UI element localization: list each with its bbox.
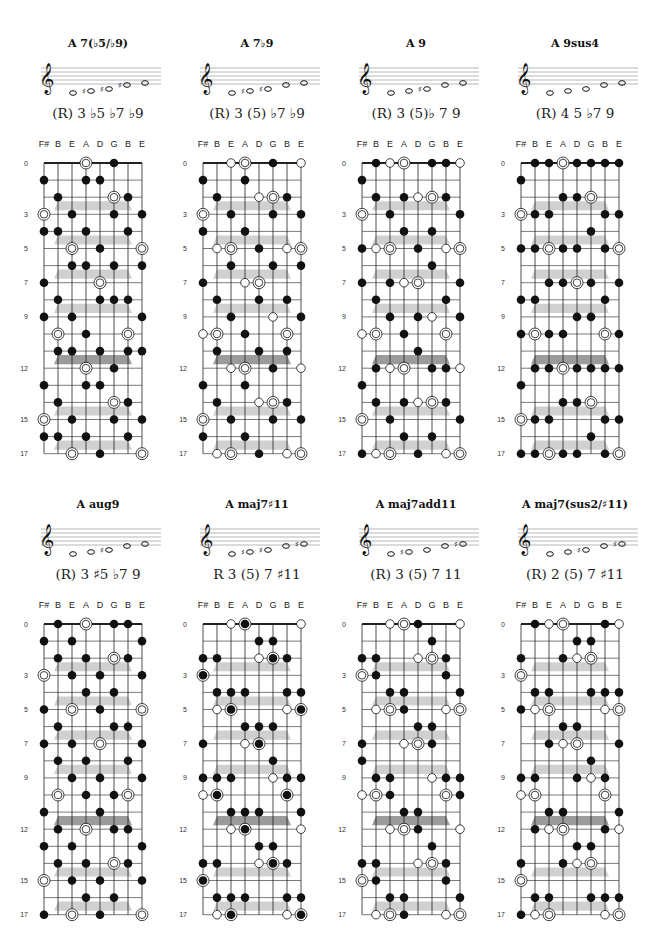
string-label: E	[616, 600, 622, 610]
chord-tone-dot	[40, 808, 49, 817]
chord-tone-dot	[68, 739, 77, 748]
string-label: D	[97, 600, 104, 610]
accidental-icon: ♯	[454, 540, 458, 549]
optional-tone-circle	[587, 774, 596, 783]
fret-number: 7	[183, 279, 187, 286]
treble-clef-icon: 𝄞	[516, 63, 531, 95]
chord-tone-dot	[255, 296, 264, 305]
chord-tone-dot	[386, 415, 395, 424]
string-label: A	[242, 600, 248, 610]
chord-tone-dot	[400, 432, 409, 441]
fret-marker-band	[531, 696, 609, 705]
fret-number: 17	[497, 450, 505, 457]
optional-tone-circle	[283, 910, 292, 919]
string-label: B	[532, 139, 538, 149]
fret-number: 0	[501, 160, 505, 167]
chord-tone-dot	[124, 296, 133, 305]
chord-tone-dot	[615, 364, 624, 373]
string-label: F#	[198, 600, 209, 610]
chord-tone-dot	[559, 859, 568, 868]
chord-tone-dot	[456, 791, 465, 800]
chord-tone-dot	[40, 432, 49, 441]
chord-tone-dot	[213, 859, 222, 868]
root-double-circle	[356, 875, 368, 887]
fret-number: 9	[342, 774, 346, 781]
fret-marker-band	[54, 696, 132, 705]
chord-tone-dot	[456, 210, 465, 219]
chord-tone-dot	[531, 688, 540, 697]
chord-tone-dot	[400, 910, 409, 919]
chord-tone-dot	[241, 688, 250, 697]
fret-marker-band	[531, 765, 609, 774]
chord-tone-dot	[297, 313, 306, 322]
chord-tone-dot	[386, 791, 395, 800]
optional-tone-circle	[615, 825, 624, 834]
chord-tone-dot	[601, 244, 610, 253]
chord-tone-dot	[517, 859, 526, 868]
fret-marker-band	[213, 441, 291, 450]
fret-marker-band	[531, 867, 609, 876]
fretboard: F#BEADGBE03579121517	[18, 135, 178, 465]
chord-tone-dot	[400, 227, 409, 236]
chord-tone-dot	[124, 654, 133, 663]
string-label: E	[616, 139, 622, 149]
optional-tone-circle	[386, 364, 395, 373]
chord-tone-dot	[372, 774, 381, 783]
fret-number: 17	[20, 450, 28, 457]
chord-tone-dot	[545, 330, 554, 339]
string-label: D	[97, 139, 104, 149]
optional-tone-circle	[358, 330, 367, 339]
chord-tone-dot	[82, 654, 91, 663]
root-double-circle	[295, 448, 307, 460]
fret-marker-band	[213, 235, 291, 244]
chord-tone-dot	[227, 313, 236, 322]
chord-tone-dot	[442, 876, 451, 885]
chord-tone-dot	[124, 227, 133, 236]
whole-note-icon	[424, 548, 431, 553]
optional-tone-circle	[601, 705, 610, 714]
whole-note-icon	[283, 544, 290, 549]
chord-tone-dot	[199, 176, 208, 185]
fretboard: F#BEADGBE03579121517	[336, 596, 496, 926]
root-double-circle	[384, 448, 396, 460]
chord-title: A 9	[336, 37, 496, 50]
root-double-circle	[585, 652, 597, 664]
string-label: F#	[357, 600, 368, 610]
chord-tone-dot	[615, 159, 624, 168]
chord-title: A 7(♭5/♭9)	[18, 37, 178, 50]
root-double-circle	[370, 789, 382, 801]
optional-tone-circle	[255, 654, 264, 663]
chord-tone-dot	[255, 808, 264, 817]
optional-tone-circle	[372, 244, 381, 253]
chord-tone-dot	[587, 227, 596, 236]
chord-tone-dot	[54, 347, 63, 356]
chord-tone-dot	[531, 774, 540, 783]
string-label: G	[110, 139, 117, 149]
whole-note-icon	[70, 91, 77, 96]
chord-tone-dot	[124, 432, 133, 441]
optional-tone-circle	[372, 449, 381, 458]
chord-tone-dot	[442, 654, 451, 663]
chord-tone-dot	[110, 620, 119, 629]
staff-notation: 𝄞♯♯	[510, 523, 640, 563]
chord-title: A 7♭9	[177, 37, 337, 50]
root-double-circle	[454, 909, 466, 921]
chord-tone-dot	[124, 347, 133, 356]
optional-tone-circle	[456, 159, 465, 168]
chord-tone-dot	[531, 210, 540, 219]
fret-number: 3	[501, 672, 505, 679]
chord-tone-dot	[615, 415, 624, 424]
chord-tone-dot	[110, 364, 119, 373]
optional-tone-circle	[428, 313, 437, 322]
chord-tone-dot	[96, 449, 105, 458]
chord-tone-dot	[517, 176, 526, 185]
chord-tone-dot	[386, 893, 395, 902]
chord-tone-dot	[573, 398, 582, 407]
fret-number: 15	[338, 877, 346, 884]
chord-tone-dot	[531, 449, 540, 458]
chord-tone-dot	[96, 910, 105, 919]
chord-tone-dot	[213, 688, 222, 697]
optional-tone-circle	[428, 774, 437, 783]
chord-tone-dot	[241, 722, 250, 731]
chord-tone-dot	[40, 705, 49, 714]
